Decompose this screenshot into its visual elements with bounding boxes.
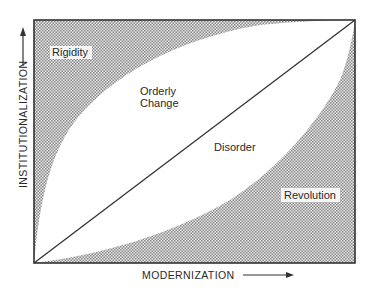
rigidity-label: Rigidity <box>52 46 89 58</box>
diagram-canvas: Rigidity Orderly Change Disorder Revolut… <box>0 0 376 296</box>
x-axis-arrow-icon <box>243 272 294 278</box>
disorder-label: Disorder <box>214 141 256 153</box>
orderly-change-label-line2: Change <box>140 97 179 109</box>
y-axis-arrow-icon <box>20 27 26 66</box>
revolution-label: Revolution <box>284 189 336 201</box>
y-axis-label: INSTITUTIONALIZATION <box>17 61 29 188</box>
orderly-change-label-line1: Orderly <box>140 85 177 97</box>
x-axis-label: MODERNIZATION <box>142 269 235 281</box>
